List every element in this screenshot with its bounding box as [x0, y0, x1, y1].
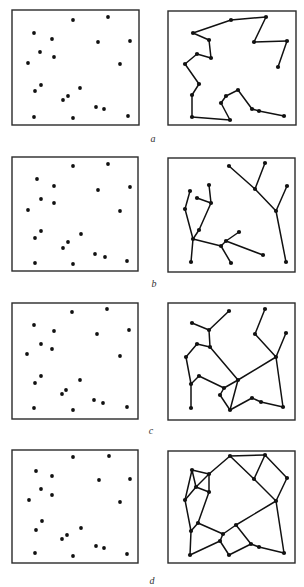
data-point	[50, 37, 54, 41]
graph-node	[285, 39, 289, 43]
graph-node	[191, 31, 195, 35]
data-point	[25, 352, 29, 356]
graph-edge	[265, 455, 287, 478]
graph-edge	[276, 211, 286, 262]
graph-node	[184, 355, 188, 359]
data-point	[71, 116, 75, 120]
data-point	[39, 342, 43, 346]
graph-node	[274, 499, 278, 503]
graph-node	[194, 485, 198, 489]
graph-edge	[254, 41, 287, 42]
graph-edge	[192, 323, 209, 330]
graph-node	[183, 207, 187, 211]
data-point	[33, 236, 37, 240]
graph-node	[281, 405, 285, 409]
graph-edge	[230, 455, 265, 456]
graph-edge	[209, 456, 230, 474]
graph-edge	[254, 455, 265, 479]
graph-edge	[192, 470, 209, 474]
point-set-box	[12, 157, 138, 271]
graph-edge	[197, 54, 211, 58]
graph-edge	[226, 241, 263, 255]
panel-label-c: c	[141, 425, 161, 436]
graph-node	[263, 307, 267, 311]
graph-edge	[198, 523, 223, 534]
data-point	[102, 546, 106, 550]
data-point	[103, 255, 107, 259]
graph-edge	[255, 163, 265, 189]
graph-edge	[231, 17, 266, 20]
data-point	[39, 487, 43, 491]
graph-node	[197, 82, 201, 86]
graph-node	[190, 93, 194, 97]
graph-edge	[198, 492, 209, 523]
data-point	[66, 240, 70, 244]
graph-edge	[185, 54, 197, 64]
box-frame	[12, 450, 138, 563]
data-point	[97, 478, 101, 482]
graph-edge	[193, 20, 231, 33]
graph-node	[207, 490, 211, 494]
data-point	[52, 201, 56, 205]
graph-edge	[230, 456, 254, 479]
graph-node	[189, 382, 193, 386]
graph-edge	[185, 209, 193, 239]
data-point	[65, 533, 69, 537]
data-point	[95, 332, 99, 336]
graph-node	[257, 109, 261, 113]
graph-edge	[226, 232, 239, 241]
data-point	[26, 208, 30, 212]
data-point	[118, 500, 122, 504]
graph-edge	[193, 239, 221, 246]
graph-node	[195, 52, 199, 56]
graph-node	[227, 164, 231, 168]
graph-edge	[223, 525, 236, 534]
data-point	[33, 381, 37, 385]
data-point	[71, 455, 75, 459]
data-point	[125, 405, 129, 409]
graph-box	[168, 11, 296, 125]
graph-node	[224, 94, 228, 98]
graph-edge	[192, 117, 230, 120]
graph-node	[195, 196, 199, 200]
graph-node	[282, 114, 286, 118]
data-point	[94, 105, 98, 109]
graph-edge	[276, 333, 286, 357]
data-point	[60, 392, 64, 396]
data-point	[64, 388, 68, 392]
graph-edge	[186, 357, 191, 384]
graph-edge	[259, 547, 284, 553]
graph-box	[168, 451, 295, 563]
graph-edge	[220, 541, 229, 555]
graph-edge	[199, 203, 211, 230]
data-point	[32, 31, 36, 35]
graph-node	[191, 237, 195, 241]
data-point	[50, 347, 54, 351]
graph-edge	[221, 103, 230, 120]
graph-edge	[209, 330, 210, 347]
graph-node	[222, 386, 226, 390]
graph-node	[253, 332, 257, 336]
graph-node	[250, 107, 254, 111]
graph-box	[168, 158, 295, 272]
graph-node	[274, 209, 278, 213]
graph-edge	[185, 191, 190, 209]
data-point	[128, 185, 132, 189]
graph-edge	[278, 41, 287, 67]
graph-node	[237, 230, 241, 234]
data-point	[93, 252, 97, 256]
graph-node	[209, 56, 213, 60]
graph-edge	[209, 40, 211, 58]
graph-edge	[185, 500, 191, 531]
graph-edge	[190, 541, 220, 555]
graph-node	[207, 328, 211, 332]
data-point	[39, 197, 43, 201]
graph-edge	[255, 334, 276, 357]
graph-edge	[190, 531, 191, 555]
data-point	[39, 374, 43, 378]
panel-c	[12, 303, 295, 420]
data-point	[101, 401, 105, 405]
point-set-box	[12, 303, 138, 419]
data-point	[118, 209, 122, 213]
data-point	[92, 398, 96, 402]
